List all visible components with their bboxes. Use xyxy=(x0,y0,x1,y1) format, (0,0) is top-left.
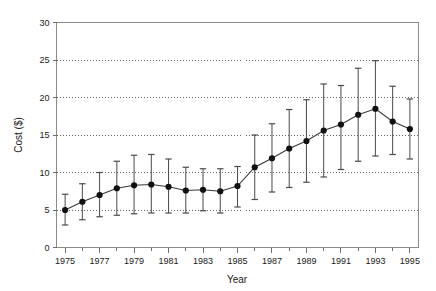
data-point-1992 xyxy=(355,112,361,118)
data-point-1977 xyxy=(96,192,102,198)
data-point-1984 xyxy=(217,188,223,194)
y-tick-label-5: 5 xyxy=(44,205,49,215)
data-point-1988 xyxy=(286,145,292,151)
data-point-1986 xyxy=(252,164,258,170)
data-point-1976 xyxy=(79,199,85,205)
data-point-1979 xyxy=(131,182,137,188)
x-tick-label-1995: 1995 xyxy=(400,256,420,266)
data-point-1983 xyxy=(200,187,206,193)
x-tick-label-1989: 1989 xyxy=(296,256,316,266)
data-point-1991 xyxy=(338,121,344,127)
y-tick-label-0: 0 xyxy=(44,243,49,253)
data-point-1989 xyxy=(303,138,309,144)
x-axis-title: Year xyxy=(227,274,248,285)
data-point-1978 xyxy=(114,185,120,191)
data-point-1995 xyxy=(407,126,413,132)
y-tick-label-20: 20 xyxy=(39,93,49,103)
data-point-1990 xyxy=(321,127,327,133)
error-bars-group xyxy=(62,61,413,225)
data-point-1975 xyxy=(62,207,68,213)
data-point-1987 xyxy=(269,155,275,161)
y-axis-title: Cost ($) xyxy=(13,117,24,153)
x-tick-label-1983: 1983 xyxy=(193,256,213,266)
x-tick-labels: 1975197719791981198319851987198919911993… xyxy=(55,256,420,266)
data-point-1982 xyxy=(183,187,189,193)
tickmarks-group xyxy=(53,23,410,253)
data-point-1981 xyxy=(165,184,171,190)
y-tick-label-15: 15 xyxy=(39,130,49,140)
data-point-1985 xyxy=(234,183,240,189)
x-tick-label-1993: 1993 xyxy=(365,256,385,266)
data-point-1994 xyxy=(390,118,396,124)
data-point-1993 xyxy=(372,106,378,112)
y-tick-labels: 051015202530 xyxy=(39,18,49,253)
y-tick-label-25: 25 xyxy=(39,55,49,65)
cost-vs-year-chart: 051015202530 197519771979198119831985198… xyxy=(0,0,436,291)
x-tick-label-1977: 1977 xyxy=(90,256,110,266)
x-tick-label-1979: 1979 xyxy=(124,256,144,266)
x-tick-label-1975: 1975 xyxy=(55,256,75,266)
chart-canvas: 051015202530 197519771979198119831985198… xyxy=(0,0,436,291)
y-tick-label-30: 30 xyxy=(39,18,49,28)
y-tick-label-10: 10 xyxy=(39,168,49,178)
x-tick-label-1985: 1985 xyxy=(227,256,247,266)
x-tick-label-1981: 1981 xyxy=(159,256,179,266)
x-tick-label-1991: 1991 xyxy=(331,256,351,266)
x-tick-label-1987: 1987 xyxy=(262,256,282,266)
data-point-1980 xyxy=(148,181,154,187)
